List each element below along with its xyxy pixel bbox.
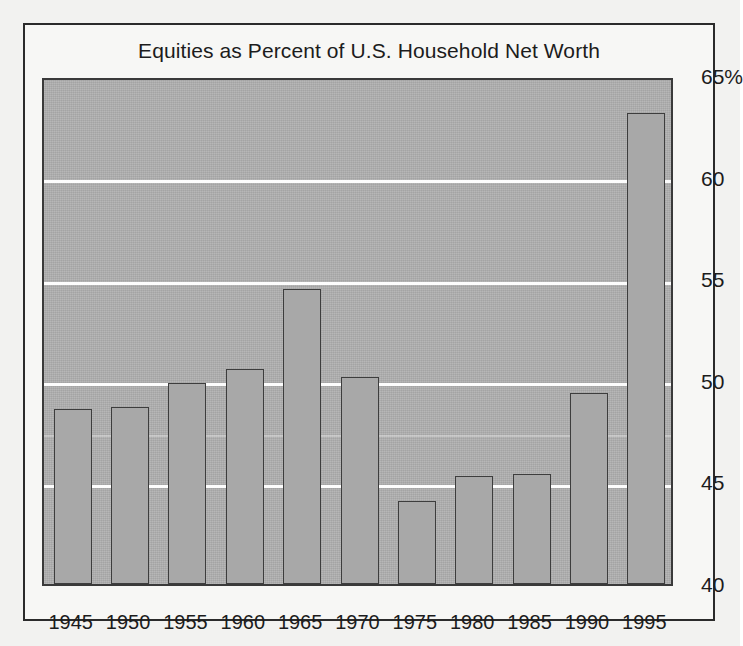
x-tick-1970: 1970 (328, 611, 388, 634)
bar-1990 (570, 393, 608, 584)
bar-1950 (111, 407, 149, 584)
y-tick-40: 40 (701, 573, 724, 597)
chart-title: Equities as Percent of U.S. Household Ne… (25, 39, 713, 63)
gridline-55 (44, 282, 671, 285)
x-tick-1985: 1985 (500, 611, 560, 634)
x-tick-1955: 1955 (155, 611, 215, 634)
x-tick-1995: 1995 (614, 611, 674, 634)
bar-1970 (341, 377, 379, 584)
y-tick-60: 60 (701, 167, 724, 191)
y-tick-45: 45 (701, 471, 724, 495)
y-tick-65: 65% (701, 65, 743, 89)
x-tick-1945: 1945 (41, 611, 101, 634)
bar-1980 (455, 476, 493, 584)
bar-1965 (283, 289, 321, 584)
bar-1995 (627, 113, 665, 584)
y-tick-55: 55 (701, 268, 724, 292)
x-tick-1975: 1975 (385, 611, 445, 634)
x-tick-1990: 1990 (557, 611, 617, 634)
bar-1945 (54, 409, 92, 584)
bar-1985 (513, 474, 551, 584)
x-tick-1950: 1950 (98, 611, 158, 634)
plot-area (42, 78, 673, 586)
gridline-60 (44, 180, 671, 183)
y-tick-50: 50 (701, 370, 724, 394)
bar-1960 (226, 369, 264, 584)
bar-1955 (168, 383, 206, 584)
figure-frame: Equities as Percent of U.S. Household Ne… (23, 23, 715, 621)
bar-1975 (398, 501, 436, 584)
x-tick-1960: 1960 (213, 611, 273, 634)
x-tick-1980: 1980 (442, 611, 502, 634)
x-tick-1965: 1965 (270, 611, 330, 634)
